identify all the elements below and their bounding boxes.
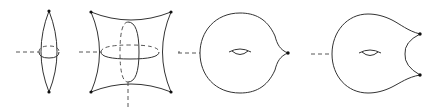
diagram-canvas (0, 0, 435, 111)
horizontal-section-front (101, 52, 159, 59)
surfaces-diagram (0, 0, 435, 111)
marked-point (286, 51, 289, 54)
marked-point (47, 9, 50, 12)
lens-equator-front (39, 52, 59, 58)
horizontal-section-back (101, 45, 159, 52)
pillow-bottom-edge (91, 84, 171, 92)
torus-outline (200, 13, 288, 93)
marked-point (89, 10, 92, 13)
marked-point (169, 10, 172, 13)
lens-left-arc (41, 11, 49, 92)
marked-point (418, 73, 421, 76)
torus-hole-lower (362, 52, 378, 56)
pillow-top-edge (91, 12, 171, 20)
figure-pillow (79, 10, 180, 108)
figure-torus-two-cusps (311, 14, 422, 93)
pillow-right-edge (163, 12, 172, 92)
figure-torus-one-cusp (178, 13, 290, 93)
vertical-section-back (120, 22, 128, 82)
marked-point (169, 90, 172, 93)
torus-hole-lower (232, 51, 248, 55)
lens-equator-back (39, 46, 59, 52)
vertical-section-front (128, 22, 139, 82)
figure-lens (16, 9, 59, 93)
marked-point (47, 90, 50, 93)
marked-point (418, 32, 421, 35)
marked-point (89, 90, 92, 93)
lens-right-arc (49, 11, 57, 92)
